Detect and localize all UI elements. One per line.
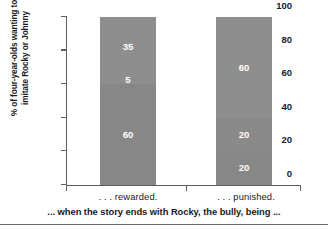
bar-punished-segment-top: 60	[216, 17, 272, 118]
bar-punished-segment-middle-label: 20	[239, 130, 250, 140]
bar-rewarded-segment-bottom: 60	[100, 84, 156, 185]
bar-rewarded-segment-middle: 5	[100, 76, 156, 84]
bar-rewarded[interactable]: 35 5 60	[100, 17, 156, 185]
plot-area: 0 20 40 60 80 100 35 5 60 60 20	[66, 17, 300, 185]
bar-rewarded-segment-bottom-label: 60	[123, 130, 134, 140]
bar-rewarded-segment-top: 35	[100, 17, 156, 76]
chart-figure: % of four-year-olds wanting to imitate R…	[0, 0, 328, 231]
y-tick-40	[61, 117, 66, 118]
y-axis-title: % of four-year-olds wanting to imitate R…	[9, 0, 31, 156]
bar-punished-segment-bottom-label: 20	[239, 163, 250, 173]
x-tick-left	[66, 185, 67, 191]
x-axis-line	[66, 185, 301, 186]
x-axis-category-label-punished: . . . punished.	[186, 191, 306, 202]
y-tick-20	[61, 150, 66, 151]
y-tick-60	[61, 83, 66, 84]
x-axis-category-label-rewarded: . . . rewarded.	[68, 191, 188, 202]
y-tick-100	[61, 16, 66, 17]
bar-punished-segment-bottom: 20	[216, 151, 272, 185]
bar-rewarded-segment-top-label: 35	[123, 42, 134, 52]
y-tick-label-100: 100	[258, 0, 292, 11]
bar-punished-segment-middle: 20	[216, 118, 272, 152]
bar-punished[interactable]: 60 20 20	[216, 17, 272, 185]
bar-punished-segment-top-label: 60	[239, 63, 250, 73]
y-tick-80	[61, 49, 66, 50]
bottom-divider	[0, 224, 328, 225]
x-axis-title-caption: ... when the story ends with Rocky, the …	[0, 206, 328, 217]
